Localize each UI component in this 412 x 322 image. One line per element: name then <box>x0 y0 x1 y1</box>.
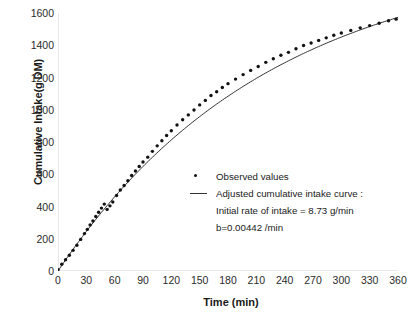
data-point <box>141 160 144 163</box>
data-point <box>234 77 237 80</box>
dot-marker-icon <box>194 174 197 177</box>
data-point <box>146 155 149 158</box>
data-point <box>332 34 335 37</box>
legend-note-initial-rate: Initial rate of intake = 8.73 g/min <box>190 202 402 219</box>
data-point <box>368 24 371 27</box>
data-point <box>257 65 260 68</box>
x-tick-label: 150 <box>185 275 215 285</box>
data-point <box>349 29 352 32</box>
data-point <box>134 169 137 172</box>
data-point <box>192 108 195 111</box>
legend-note-b: b=0.00442 /min <box>190 219 402 236</box>
data-point <box>119 188 122 191</box>
data-point <box>187 113 190 116</box>
data-point <box>86 228 89 231</box>
x-tick-label: 30 <box>71 275 101 285</box>
data-point <box>241 73 244 76</box>
x-tick-label: 90 <box>128 275 158 285</box>
data-point <box>83 232 86 235</box>
data-point <box>151 150 154 153</box>
x-axis-title: Time (min) <box>58 296 404 308</box>
data-point <box>103 202 106 205</box>
data-point <box>309 41 312 44</box>
data-point <box>108 204 111 207</box>
data-point <box>88 223 91 226</box>
y-tick-label: 1000 <box>18 105 54 115</box>
data-point <box>302 44 305 47</box>
y-tick-label: 400 <box>18 202 54 212</box>
data-point <box>394 17 397 20</box>
data-point <box>226 82 229 85</box>
data-point <box>126 179 129 182</box>
data-point <box>170 129 173 132</box>
legend-label-observed: Observed values <box>216 171 289 182</box>
chart-legend: Observed values Adjusted cumulative inta… <box>190 168 402 236</box>
data-point <box>317 39 320 42</box>
y-tick-label: 200 <box>18 234 54 244</box>
data-point <box>340 31 343 34</box>
data-point <box>198 103 201 106</box>
x-tick-label: 60 <box>100 275 130 285</box>
data-point <box>287 51 290 54</box>
legend-item-observed: Observed values <box>190 168 402 185</box>
data-point <box>71 249 74 252</box>
data-point <box>160 139 163 142</box>
data-point <box>122 184 125 187</box>
x-tick-label: 270 <box>298 275 328 285</box>
x-tick-label: 180 <box>213 275 243 285</box>
data-point <box>155 144 158 147</box>
data-point <box>279 54 282 57</box>
data-point <box>264 61 267 64</box>
data-point <box>209 94 212 97</box>
x-tick-label: 0 <box>43 275 73 285</box>
x-tick-label: 300 <box>326 275 356 285</box>
x-axis-tick-labels: 0306090120150180210240270300330360 <box>0 275 404 291</box>
y-tick-label: 1600 <box>18 8 54 18</box>
data-point <box>138 165 141 168</box>
data-point <box>91 219 94 222</box>
data-point <box>181 118 184 121</box>
y-axis-tick-labels: 02004006008001000120014001600 <box>16 0 54 322</box>
data-point <box>64 258 67 261</box>
data-point <box>111 200 114 203</box>
data-point <box>165 134 168 137</box>
data-point <box>294 47 297 50</box>
data-point <box>68 254 71 257</box>
data-point <box>221 86 224 89</box>
data-point <box>100 206 103 209</box>
x-tick-label: 210 <box>241 275 271 285</box>
data-point <box>272 57 275 60</box>
data-point <box>359 26 362 29</box>
x-tick-label: 240 <box>270 275 300 285</box>
data-point <box>249 69 252 72</box>
y-tick-label: 600 <box>18 169 54 179</box>
data-point <box>325 36 328 39</box>
data-point <box>79 238 82 241</box>
data-point <box>387 19 390 22</box>
y-tick-label: 800 <box>18 137 54 147</box>
data-point <box>377 22 380 25</box>
data-point <box>175 123 178 126</box>
data-point <box>105 208 108 211</box>
y-tick-label: 1200 <box>18 73 54 83</box>
y-tick-label: 1400 <box>18 40 54 50</box>
x-tick-label: 330 <box>355 275 385 285</box>
data-point <box>94 215 97 218</box>
data-point <box>60 263 63 266</box>
data-point <box>215 90 218 93</box>
x-tick-label: 120 <box>156 275 186 285</box>
data-point <box>97 211 100 214</box>
x-tick-label: 360 <box>383 275 412 285</box>
line-marker-icon <box>190 193 207 194</box>
legend-item-curve: Adjusted cumulative intake curve : <box>190 185 402 202</box>
legend-label-curve: Adjusted cumulative intake curve : <box>216 188 363 199</box>
data-point <box>204 99 207 102</box>
data-point <box>75 244 78 247</box>
data-point <box>130 174 133 177</box>
data-point <box>115 194 118 197</box>
